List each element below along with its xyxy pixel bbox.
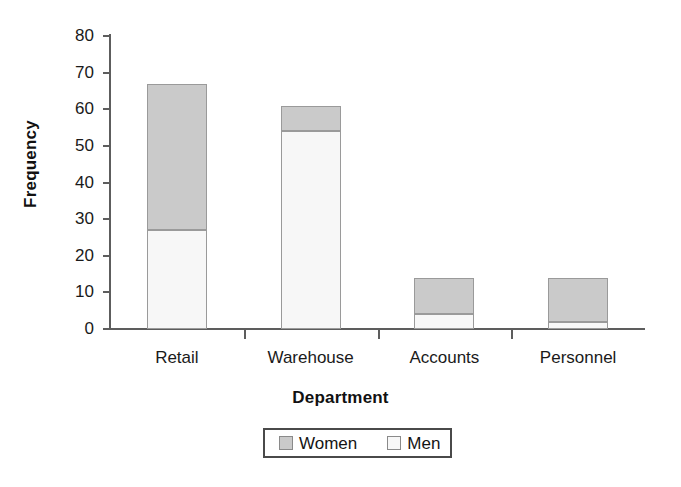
x-tick bbox=[244, 330, 246, 339]
bar-segment-women[interactable] bbox=[548, 278, 608, 322]
y-tick-label: 0 bbox=[50, 320, 94, 337]
bar-segment-men[interactable] bbox=[414, 314, 474, 329]
x-axis-title: Department bbox=[0, 388, 681, 408]
x-tick bbox=[511, 330, 513, 339]
chart-legend: WomenMen bbox=[263, 428, 452, 458]
y-tick-label: 50 bbox=[50, 137, 94, 154]
bar-segment-women[interactable] bbox=[281, 106, 341, 132]
y-tick bbox=[103, 255, 110, 257]
y-tick bbox=[103, 35, 110, 37]
legend-item-men[interactable]: Men bbox=[387, 435, 440, 452]
plot-area bbox=[110, 36, 645, 329]
y-tick bbox=[103, 145, 110, 147]
x-tick bbox=[378, 330, 380, 339]
legend-swatch-icon bbox=[387, 436, 401, 450]
y-tick-label: 70 bbox=[50, 64, 94, 81]
y-axis-title: Frequency bbox=[21, 99, 41, 229]
y-tick-label: 80 bbox=[50, 27, 94, 44]
y-tick-label: 40 bbox=[50, 174, 94, 191]
x-category-label: Personnel bbox=[498, 348, 658, 368]
bar-segment-women[interactable] bbox=[147, 84, 207, 231]
y-tick bbox=[103, 108, 110, 110]
legend-label: Men bbox=[407, 435, 440, 452]
bar-segment-men[interactable] bbox=[147, 230, 207, 329]
y-tick-label: 30 bbox=[50, 210, 94, 227]
bar-segment-men[interactable] bbox=[281, 131, 341, 329]
legend-item-women[interactable]: Women bbox=[279, 435, 357, 452]
y-tick bbox=[103, 182, 110, 184]
legend-swatch-icon bbox=[279, 436, 293, 450]
y-tick bbox=[103, 328, 110, 330]
y-tick-label: 10 bbox=[50, 283, 94, 300]
bar-segment-men[interactable] bbox=[548, 322, 608, 329]
stacked-bar-chart: Frequency 01020304050607080 RetailWareho… bbox=[0, 0, 681, 487]
y-tick bbox=[103, 291, 110, 293]
y-tick-label: 60 bbox=[50, 100, 94, 117]
bar-group[interactable] bbox=[281, 36, 341, 329]
bar-group[interactable] bbox=[548, 36, 608, 329]
bar-group[interactable] bbox=[414, 36, 474, 329]
bar-segment-women[interactable] bbox=[414, 278, 474, 315]
y-tick-label: 20 bbox=[50, 247, 94, 264]
legend-label: Women bbox=[299, 435, 357, 452]
y-tick bbox=[103, 72, 110, 74]
y-tick bbox=[103, 218, 110, 220]
bar-group[interactable] bbox=[147, 36, 207, 329]
